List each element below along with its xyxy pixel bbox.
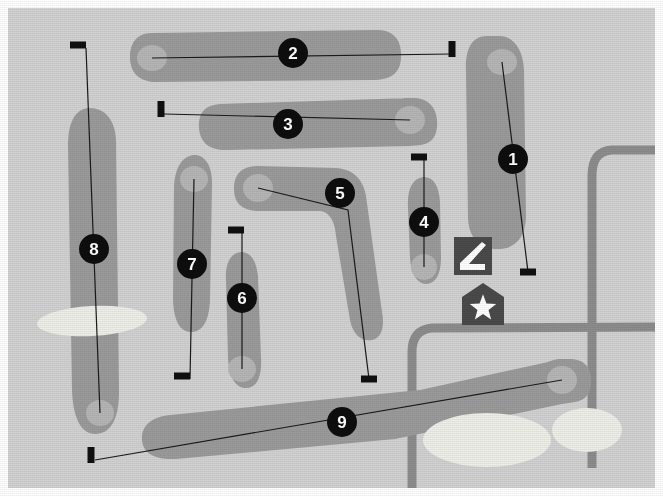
hole-marker-circle-4 (409, 207, 439, 237)
course-svg-canvas: 123456789 (0, 0, 663, 496)
hole-marker-circle-2 (278, 38, 308, 68)
hole-marker-circle-6 (227, 283, 257, 313)
tee-marker-hole-6[interactable] (228, 227, 244, 234)
tee-marker-hole-5[interactable] (361, 376, 377, 383)
hole-marker-7[interactable]: 7 (177, 249, 207, 279)
hole-marker-6[interactable]: 6 (227, 283, 257, 313)
tee-marker-hole-7[interactable] (174, 373, 190, 380)
hole-marker-4[interactable]: 4 (409, 207, 439, 237)
tee-marker-hole-8[interactable] (70, 42, 86, 49)
fairway-hole-8 (68, 108, 119, 434)
hole-marker-circle-8 (79, 234, 109, 264)
tee-marker-hole-9[interactable] (88, 447, 95, 463)
hole-marker-8[interactable]: 8 (79, 234, 109, 264)
tee-marker-hole-3[interactable] (158, 101, 165, 117)
hole-marker-1[interactable]: 1 (498, 144, 528, 174)
bunker-lower-right-9 (552, 408, 622, 452)
hole-marker-3[interactable]: 3 (273, 109, 303, 139)
hole-marker-circle-5 (325, 178, 355, 208)
hole-marker-circle-1 (498, 144, 528, 174)
tee-marker-hole-2[interactable] (449, 41, 456, 57)
hole-marker-circle-3 (273, 109, 303, 139)
tee-marker-hole-1[interactable] (520, 269, 536, 276)
hole-marker-circle-7 (177, 249, 207, 279)
practice-green-icon[interactable] (454, 237, 492, 275)
tee-marker-hole-4[interactable] (411, 154, 427, 161)
hole-marker-2[interactable]: 2 (278, 38, 308, 68)
hole-marker-circle-9 (327, 407, 357, 437)
golf-course-map: 123456789 (0, 0, 663, 496)
hole-marker-5[interactable]: 5 (325, 178, 355, 208)
hole-marker-9[interactable]: 9 (327, 407, 357, 437)
bunker-lower-center-9 (423, 413, 551, 467)
